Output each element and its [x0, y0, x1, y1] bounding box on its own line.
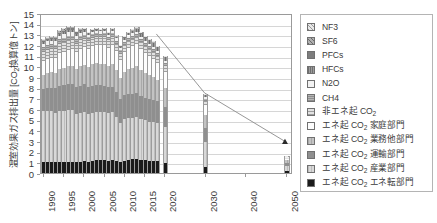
- x-tick-label: 2050: [290, 191, 300, 212]
- x-tick-mark: [63, 174, 64, 177]
- legend-item-8[interactable]: エネ起 CO2 業務他部門: [307, 134, 428, 148]
- x-tick-label: 2015: [148, 191, 158, 212]
- y-tick-mark: [37, 163, 40, 164]
- plot-area: [40, 14, 292, 174]
- y-tick-mark: [37, 57, 40, 58]
- y-tick-label: 5: [29, 116, 34, 125]
- legend-swatch-icon: [307, 23, 315, 31]
- legend-label: エネ起 CO2 運輸部門: [322, 150, 405, 161]
- y-tick-mark: [37, 78, 40, 79]
- y-tick-label: 8: [29, 84, 34, 93]
- x-tick-mark: [245, 174, 246, 177]
- legend-label: CH4: [322, 94, 339, 103]
- legend-swatch-icon: [307, 66, 315, 74]
- y-tick-label: 13: [23, 31, 34, 40]
- y-tick-label: 10: [23, 63, 34, 72]
- x-tick-mark: [124, 174, 125, 177]
- y-tick-mark: [37, 35, 40, 36]
- legend-swatch-icon: [307, 122, 315, 130]
- target-line-marker: [282, 139, 288, 144]
- x-tick-mark: [83, 174, 84, 177]
- legend-item-4[interactable]: N2O: [307, 77, 428, 91]
- legend-label: 非エネ起 CO2: [322, 107, 376, 118]
- y-tick-label: 4: [29, 127, 34, 136]
- legend-swatch-icon: [307, 179, 315, 187]
- y-tick-label: 3: [29, 138, 34, 147]
- legend-item-2[interactable]: PFCs: [307, 48, 428, 62]
- y-tick-mark: [37, 46, 40, 47]
- y-tick-mark: [37, 25, 40, 26]
- x-axis-ticks: 1990199520002005201020152020203020402050: [40, 176, 292, 222]
- y-tick-label: 0: [29, 170, 34, 179]
- x-tick-label: 1990: [47, 191, 57, 212]
- legend-label: エネ起 CO2 家庭部門: [322, 121, 405, 132]
- legend-swatch-icon: [307, 80, 315, 88]
- y-tick-mark: [37, 14, 40, 15]
- legend-label: NF3: [322, 23, 338, 32]
- y-tick-label: 15: [23, 10, 34, 19]
- y-tick-mark: [37, 89, 40, 90]
- legend-item-3[interactable]: HFCs: [307, 63, 428, 77]
- legend-swatch-icon: [307, 151, 315, 159]
- y-tick-mark: [37, 131, 40, 132]
- y-tick-mark: [37, 142, 40, 143]
- legend-swatch-icon: [307, 94, 315, 102]
- x-tick-mark: [205, 174, 206, 177]
- legend-swatch-icon: [307, 137, 315, 145]
- legend-label: エネ起 CO2 産業部門: [322, 164, 405, 175]
- x-tick-label: 2005: [108, 191, 118, 212]
- legend-label: PFCs: [322, 51, 343, 60]
- legend-label: エネ起 CO2 業務他部門: [322, 135, 414, 146]
- x-tick-label: 2020: [168, 191, 178, 212]
- y-tick-label: 12: [23, 42, 34, 51]
- x-tick-label: 2010: [128, 191, 138, 212]
- x-tick-mark: [144, 174, 145, 177]
- chart-legend: NF3SF6PFCsHFCsN2OCH4非エネ起 CO2エネ起 CO2 家庭部門…: [300, 14, 433, 192]
- y-tick-label: 2: [29, 148, 34, 157]
- x-tick-mark: [164, 174, 165, 177]
- y-axis-ticks: 0123456789101112131415: [0, 14, 37, 174]
- legend-label: SF6: [322, 37, 337, 46]
- legend-item-7[interactable]: エネ起 CO2 家庭部門: [307, 119, 428, 133]
- x-tick-mark: [104, 174, 105, 177]
- y-tick-label: 1: [29, 159, 34, 168]
- legend-item-1[interactable]: SF6: [307, 34, 428, 48]
- legend-label: N2O: [322, 79, 339, 88]
- legend-label: エネ起 CO2 エネ転部門: [322, 178, 414, 189]
- legend-item-11[interactable]: エネ起 CO2 エネ転部門: [307, 176, 428, 190]
- y-tick-mark: [37, 67, 40, 68]
- y-tick-mark: [37, 153, 40, 154]
- legend-item-10[interactable]: エネ起 CO2 産業部門: [307, 162, 428, 176]
- legend-swatch-icon: [307, 37, 315, 45]
- x-tick-label: 2030: [209, 191, 219, 212]
- y-tick-mark: [37, 99, 40, 100]
- y-tick-mark: [37, 174, 40, 175]
- legend-label: HFCs: [322, 65, 344, 74]
- legend-item-9[interactable]: エネ起 CO2 運輸部門: [307, 148, 428, 162]
- legend-item-6[interactable]: 非エネ起 CO2: [307, 105, 428, 119]
- y-tick-label: 14: [23, 20, 34, 29]
- y-tick-mark: [37, 110, 40, 111]
- y-tick-label: 6: [29, 106, 34, 115]
- legend-swatch-icon: [307, 165, 315, 173]
- x-tick-label: 2040: [249, 191, 259, 212]
- x-tick-mark: [286, 174, 287, 177]
- y-tick-label: 9: [29, 74, 34, 83]
- x-tick-label: 1995: [67, 191, 77, 212]
- target-line-svg: [41, 15, 291, 173]
- x-tick-mark: [43, 174, 44, 177]
- target-line: [156, 34, 285, 141]
- y-tick-label: 7: [29, 95, 34, 104]
- y-tick-mark: [37, 121, 40, 122]
- legend-swatch-icon: [307, 51, 315, 59]
- y-tick-label: 11: [24, 52, 34, 61]
- legend-item-5[interactable]: CH4: [307, 91, 428, 105]
- legend-swatch-icon: [307, 108, 315, 116]
- legend-item-0[interactable]: NF3: [307, 20, 428, 34]
- chart-root: 温室効果ガス排出量 [CO2換算億トン] 0123456789101112131…: [0, 0, 437, 223]
- x-tick-label: 2000: [87, 191, 97, 212]
